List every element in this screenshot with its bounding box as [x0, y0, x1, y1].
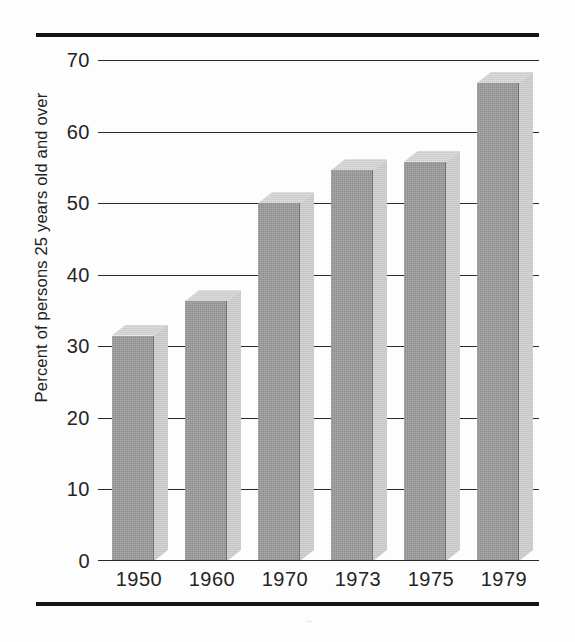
y-tick-label-60: 60: [50, 122, 90, 142]
bar-side-face: [446, 151, 460, 561]
bar-1975: [404, 151, 460, 561]
bar-side-face: [154, 325, 168, 561]
y-tick-label-40: 40: [50, 265, 90, 285]
bar-front-face: [404, 162, 446, 561]
x-axis-line: [98, 560, 539, 561]
bar-front-face: [477, 83, 519, 561]
top-rule: [36, 33, 539, 37]
page-speck: ··: [306, 616, 312, 626]
bar-1973: [331, 159, 387, 561]
y-tick-label-70: 70: [50, 50, 90, 70]
bottom-rule: [36, 602, 539, 606]
bar-side-face: [373, 159, 387, 561]
bar-front-face: [112, 336, 154, 561]
x-axis-tick-labels: 195019601970197319751979: [98, 566, 539, 598]
x-tick-label-1975: 1975: [395, 566, 467, 592]
bar-side-face: [519, 72, 533, 561]
gridline-60: [98, 132, 539, 133]
bar-1950: [112, 325, 168, 561]
bar-front-face: [185, 301, 227, 561]
gridline-50: [98, 203, 539, 204]
y-tick-label-50: 50: [50, 193, 90, 213]
chart-figure: Percent of persons 25 years old and over…: [0, 0, 575, 642]
x-tick-label-1979: 1979: [468, 566, 540, 592]
y-tick-label-30: 30: [50, 336, 90, 356]
bar-front-face: [331, 170, 373, 561]
x-tick-label-1950: 1950: [103, 566, 175, 592]
bar-side-face: [300, 192, 314, 561]
gridline-70: [98, 60, 539, 61]
x-tick-label-1960: 1960: [176, 566, 248, 592]
x-tick-label-1970: 1970: [249, 566, 321, 592]
y-tick-label-20: 20: [50, 408, 90, 428]
gridline-40: [98, 275, 539, 276]
y-axis-tick-labels: 010203040506070: [42, 60, 90, 561]
x-tick-label-1973: 1973: [322, 566, 394, 592]
bar-side-face: [227, 290, 241, 561]
bar-1979: [477, 72, 533, 561]
y-tick-label-10: 10: [50, 479, 90, 499]
plot-area: [98, 60, 539, 561]
bar-front-face: [258, 203, 300, 561]
bar-1970: [258, 192, 314, 561]
bar-1960: [185, 290, 241, 561]
y-tick-label-0: 0: [50, 551, 90, 571]
